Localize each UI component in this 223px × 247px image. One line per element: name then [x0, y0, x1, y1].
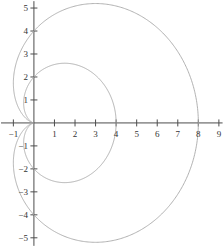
x-tick-label: 1 [52, 129, 57, 139]
x-tick-label: −1 [9, 129, 19, 139]
x-tick-label: 2 [73, 129, 78, 139]
x-tick-label: 8 [196, 129, 201, 139]
y-tick-label: 4 [23, 26, 28, 36]
y-tick-label: −5 [18, 233, 28, 243]
plot-canvas: −1123456789 −5−4−3−2−112345 [0, 0, 223, 247]
x-tick-label: 3 [93, 129, 98, 139]
y-tick-label: 3 [23, 49, 28, 59]
x-axis-tick-labels: −1123456789 [9, 129, 222, 139]
y-tick-label: 5 [23, 3, 28, 13]
axes-group [1, 1, 223, 246]
y-tick-label: −1 [18, 141, 28, 151]
y-tick-label: 1 [23, 95, 28, 105]
x-tick-label: 5 [134, 129, 139, 139]
x-tick-label: 9 [217, 129, 222, 139]
x-tick-label: 4 [114, 129, 119, 139]
x-tick-label: 7 [176, 129, 181, 139]
polar-cardioid-plot: −1123456789 −5−4−3−2−112345 [0, 0, 223, 247]
y-tick-label: −3 [18, 187, 28, 197]
y-tick-label: −2 [18, 164, 28, 174]
x-tick-label: 6 [155, 129, 160, 139]
y-tick-label: −4 [18, 210, 28, 220]
y-tick-label: 2 [23, 72, 28, 82]
